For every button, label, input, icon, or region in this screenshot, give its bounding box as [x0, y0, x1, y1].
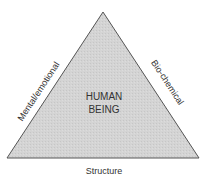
triad-diagram: HUMAN BEING Mental/emotional Bio-chemica… — [0, 0, 211, 181]
center-label-line2: BEING — [88, 104, 119, 115]
center-label-line1: HUMAN — [86, 91, 123, 102]
base-label: Structure — [86, 166, 123, 176]
